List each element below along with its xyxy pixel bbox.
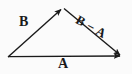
vector-a-label: A <box>58 57 68 71</box>
vector-b-label: B <box>19 15 28 29</box>
vector-diagram: B B − A A <box>0 0 132 74</box>
vector-b-arrow <box>8 10 61 58</box>
